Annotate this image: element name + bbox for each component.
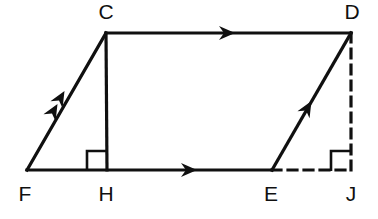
right-angle-mark-h [87, 151, 107, 171]
direction-arrow-ed [297, 97, 317, 118]
vertex-label-j: J [346, 182, 357, 205]
vertex-label-f: F [19, 182, 32, 205]
vertex-label-e: E [264, 182, 278, 205]
geometry-figure-svg: C D F H E J [0, 0, 378, 219]
vertex-label-c: C [98, 0, 113, 23]
geometry-diagram: C D F H E J [0, 0, 378, 219]
vertex-label-d: D [344, 0, 359, 23]
segment-ch-altitude [106, 33, 107, 170]
vertex-label-h: H [98, 182, 113, 205]
right-angle-mark-j [331, 151, 351, 171]
segment-fc [27, 33, 106, 170]
arrow-marks-group [43, 26, 317, 177]
segment-ed [272, 33, 351, 170]
